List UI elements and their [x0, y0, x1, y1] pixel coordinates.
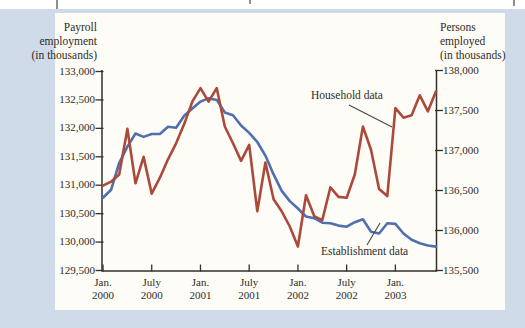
figure-employment-chart: Payroll employment (in thousands) Person… [0, 0, 525, 328]
left-axis-tick-label: 130,000 [37, 235, 95, 247]
x-axis-tick-label: 2001 [227, 289, 271, 302]
right-axis-tick-label: 137,000 [443, 144, 503, 156]
axis-frame [102, 70, 437, 271]
household-label-leader-line [349, 105, 392, 127]
left-axis-tick-label: 132,500 [37, 93, 95, 105]
left-axis-tick-label: 132,000 [37, 121, 95, 133]
left-axis-tick-label: 133,000 [37, 65, 95, 77]
right-axis-title-line: (in thousands) [440, 48, 522, 62]
left-axis-tick-label: 131,000 [37, 178, 95, 190]
right-axis-tick-label: 138,000 [443, 64, 503, 76]
x-axis-tick-label: 2000 [81, 289, 125, 302]
right-axis-title-line: employed [440, 34, 522, 48]
left-axis-title: Payroll employment (in thousands) [6, 20, 97, 62]
x-axis-tick-label: Jan. [81, 276, 125, 289]
x-axis-tick-label: 2003 [373, 289, 417, 302]
x-axis-tick-label: 2002 [276, 289, 320, 302]
right-axis-title-line: Persons [440, 20, 522, 34]
right-axis-tick-label: 136,500 [443, 184, 503, 196]
x-axis-tick-label: 2000 [130, 289, 174, 302]
left-axis-title-line: employment [6, 34, 97, 48]
left-axis-tick-label: 130,500 [37, 207, 95, 219]
right-axis-title: Persons employed (in thousands) [440, 20, 522, 62]
x-axis-tick-label: July [325, 276, 369, 289]
x-axis-tick-label: Jan. [276, 276, 320, 289]
left-axis-title-line: (in thousands) [6, 48, 97, 62]
x-axis-tick-label: July [227, 276, 271, 289]
x-axis-tick-label: 2002 [325, 289, 369, 302]
x-axis-tick-label: Jan. [178, 276, 222, 289]
right-axis-tick-label: 137,500 [443, 104, 503, 116]
right-axis-tick-label: 136,000 [443, 224, 503, 236]
left-axis-title-line: Payroll [6, 20, 97, 34]
establishment-data-line [103, 98, 436, 246]
left-axis-tick-label: 129,500 [37, 264, 95, 276]
household-data-label: Household data [311, 89, 383, 101]
x-axis-tick-label: Jan. [373, 276, 417, 289]
x-axis-tick-label: 2001 [178, 289, 222, 302]
x-axis-tick-label: July [130, 276, 174, 289]
right-axis-tick-label: 135,500 [443, 264, 503, 276]
left-axis-tick-label: 131,500 [37, 150, 95, 162]
establishment-data-label: Establishment data [321, 245, 408, 257]
